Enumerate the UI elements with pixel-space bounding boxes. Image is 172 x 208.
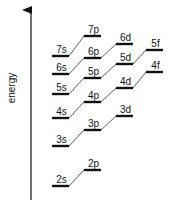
level-label: 3s	[56, 134, 67, 145]
level-label: 7p	[88, 24, 100, 35]
level-label: 3p	[88, 118, 100, 129]
connector-6s-6p	[69, 58, 84, 74]
energy-level-6s: 6s	[52, 62, 69, 74]
level-label: 5p	[88, 66, 100, 77]
level-label: 5f	[151, 38, 160, 49]
level-label: 4p	[88, 90, 100, 101]
energy-level-3s: 3s	[52, 134, 69, 146]
energy-level-2p: 2p	[84, 158, 101, 170]
orbital-energy-diagram: energy 2s2p3s3p3d4s4p4d4f5s5p5d5f6s6p6d7…	[0, 0, 172, 208]
energy-level-2s: 2s	[52, 174, 69, 186]
connector-4s-4p	[69, 102, 84, 118]
energy-level-4s: 4s	[52, 106, 69, 118]
energy-level-7p: 7p	[84, 24, 101, 36]
level-label: 6p	[88, 46, 100, 57]
connector-5d-5f	[133, 50, 146, 64]
connector-6p-6d	[101, 44, 116, 58]
level-label: 5d	[120, 52, 131, 63]
energy-level-4d: 4d	[116, 76, 133, 88]
energy-level-3d: 3d	[116, 104, 133, 116]
level-label: 5s	[56, 82, 67, 93]
energy-level-6p: 6p	[84, 46, 101, 58]
energy-level-5d: 5d	[116, 52, 133, 64]
energy-level-4p: 4p	[84, 90, 101, 102]
energy-level-6d: 6d	[116, 32, 133, 44]
energy-level-3p: 3p	[84, 118, 101, 130]
connector-4d-4f	[133, 72, 146, 88]
level-label: 4f	[151, 60, 160, 71]
energy-axis: energy	[6, 10, 31, 200]
level-label: 6d	[120, 32, 131, 43]
level-label: 4s	[56, 106, 67, 117]
connector-3p-3d	[101, 116, 116, 130]
level-label: 7s	[56, 44, 67, 55]
level-connectors	[69, 36, 146, 186]
level-label: 2p	[88, 158, 100, 169]
energy-level-5p: 5p	[84, 66, 101, 78]
connector-7s-7p	[69, 36, 84, 56]
connector-2s-2p	[69, 170, 84, 186]
energy-level-4f: 4f	[146, 60, 163, 72]
connector-3s-3p	[69, 130, 84, 146]
energy-level-7s: 7s	[52, 44, 69, 56]
level-label: 6s	[56, 62, 67, 73]
connector-4p-4d	[101, 88, 116, 102]
level-label: 4d	[120, 76, 131, 87]
energy-levels: 2s2p3s3p3d4s4p4d4f5s5p5d5f6s6p6d7s7p	[52, 24, 163, 186]
level-label: 3d	[120, 104, 131, 115]
energy-level-5f: 5f	[146, 38, 163, 50]
axis-label: energy	[6, 73, 17, 104]
connector-5p-5d	[101, 64, 116, 78]
connector-5s-5p	[69, 78, 84, 94]
level-label: 2s	[56, 174, 67, 185]
energy-level-5s: 5s	[52, 82, 69, 94]
